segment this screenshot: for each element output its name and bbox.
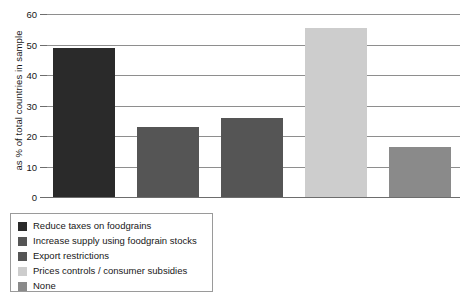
y-axis-tick bbox=[40, 14, 47, 15]
legend-item-label: Reduce taxes on foodgrains bbox=[33, 221, 151, 231]
legend-item: Reduce taxes on foodgrains bbox=[18, 219, 212, 233]
bar bbox=[221, 118, 283, 197]
legend-item: Export restrictions bbox=[18, 249, 212, 263]
gridline bbox=[47, 45, 460, 46]
bar bbox=[389, 147, 451, 197]
y-axis-tick-label: 20 bbox=[26, 131, 37, 142]
y-axis-tick bbox=[40, 75, 47, 76]
y-axis-tick-label: 0 bbox=[32, 192, 37, 203]
legend-item-label: Export restrictions bbox=[33, 251, 109, 261]
y-axis-tick-label: 10 bbox=[26, 161, 37, 172]
y-axis-tick bbox=[40, 106, 47, 107]
legend-item-label: None bbox=[33, 281, 56, 291]
legend-item-label: Prices controls / consumer subsidies bbox=[33, 266, 187, 276]
legend-swatch bbox=[18, 237, 27, 246]
legend-swatch bbox=[18, 282, 27, 291]
plot-area: 0102030405060 bbox=[47, 14, 460, 197]
bar bbox=[53, 48, 115, 197]
y-axis-tick bbox=[40, 45, 47, 46]
legend-swatch bbox=[18, 222, 27, 231]
bar bbox=[137, 127, 199, 197]
y-axis-tick-label: 60 bbox=[26, 9, 37, 20]
y-axis-tick bbox=[40, 136, 47, 137]
y-axis-title: as % of total countries in sample bbox=[13, 6, 24, 196]
axis-baseline bbox=[47, 197, 460, 198]
legend-item: None bbox=[18, 279, 212, 293]
legend-swatch bbox=[18, 252, 27, 261]
gridline bbox=[47, 14, 460, 15]
y-axis-tick bbox=[40, 197, 47, 198]
bar-chart-figure: as % of total countries in sample 010203… bbox=[0, 0, 468, 300]
y-axis-tick-label: 50 bbox=[26, 39, 37, 50]
y-axis-tick-label: 30 bbox=[26, 100, 37, 111]
chart-legend: Reduce taxes on foodgrainsIncrease suppl… bbox=[10, 213, 213, 292]
y-axis-tick-label: 40 bbox=[26, 70, 37, 81]
legend-item: Increase supply using foodgrain stocks bbox=[18, 234, 212, 248]
bar bbox=[305, 28, 367, 197]
y-axis-tick bbox=[40, 167, 47, 168]
legend-item-label: Increase supply using foodgrain stocks bbox=[33, 236, 197, 246]
legend-swatch bbox=[18, 267, 27, 276]
legend-item: Prices controls / consumer subsidies bbox=[18, 264, 212, 278]
